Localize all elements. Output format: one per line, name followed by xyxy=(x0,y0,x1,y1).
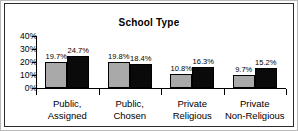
bar-value-label: 19.8% xyxy=(108,53,129,61)
x-axis-category-label: PrivateNon-Religious xyxy=(225,98,285,121)
x-axis-category-label: Public,Chosen xyxy=(113,98,146,121)
x-axis-category-label: PrivateReligious xyxy=(173,98,212,121)
x-axis-category-label-line: Private xyxy=(225,98,285,110)
bar-value-label: 9.7% xyxy=(235,66,252,74)
chart-plot-area: School Type 0%10%20%30%40% 19.7%24.7%19.… xyxy=(5,4,293,126)
y-axis-tick: 0% xyxy=(5,88,37,89)
x-axis-category-label-line: Religious xyxy=(173,110,212,122)
x-axis-category-label: Public,Assigned xyxy=(48,98,87,121)
bar-value-label: 19.7% xyxy=(46,53,67,61)
x-axis-category-label-line: Public, xyxy=(113,98,146,110)
bar-value-label: 24.7% xyxy=(68,47,89,55)
x-axis-category-labels: Public,AssignedPublic,ChosenPrivateRelig… xyxy=(5,96,293,126)
bar-value-label: 10.8% xyxy=(171,65,192,73)
x-axis-separator-tick xyxy=(99,89,100,95)
x-axis-category-label-line: Public, xyxy=(48,98,87,110)
bar xyxy=(108,62,130,88)
bar xyxy=(130,64,152,88)
x-axis-category-label-line: Non-Religious xyxy=(225,110,285,122)
x-axis-separator-tick xyxy=(36,89,37,95)
x-axis-category-label-line: Assigned xyxy=(48,110,87,122)
x-axis-separator-tick xyxy=(286,89,287,95)
bar-group: 9.7%15.2% xyxy=(233,36,277,88)
chart-screenshot: School Type 0%10%20%30%40% 19.7%24.7%19.… xyxy=(0,0,298,131)
x-axis-category-label-line: Chosen xyxy=(113,110,146,122)
bar-value-label: 15.2% xyxy=(255,59,276,67)
bar xyxy=(233,75,255,88)
bar-group: 19.7%24.7% xyxy=(45,36,89,88)
bar xyxy=(255,68,277,88)
x-axis-separator-tick xyxy=(224,89,225,95)
bar-group: 19.8%18.4% xyxy=(108,36,152,88)
x-axis-separator-tick xyxy=(161,89,162,95)
bar xyxy=(67,56,89,88)
bar xyxy=(192,67,214,88)
bar-series-layer: 19.7%24.7%19.8%18.4%10.8%16.3%9.7%15.2% xyxy=(5,36,293,88)
bar-value-label: 18.4% xyxy=(130,55,151,63)
x-axis-category-label-line: Private xyxy=(173,98,212,110)
chart-title: School Type xyxy=(5,17,293,28)
bar xyxy=(170,74,192,88)
bar xyxy=(45,62,67,88)
bar-group: 10.8%16.3% xyxy=(170,36,214,88)
bar-value-label: 16.3% xyxy=(193,58,214,66)
